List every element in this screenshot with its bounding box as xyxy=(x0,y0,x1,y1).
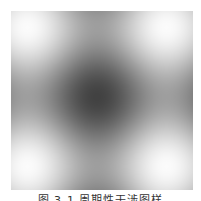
interference-pattern-figure xyxy=(11,11,193,190)
figure-caption: 图 3-1 周期性干涉图样 xyxy=(0,195,201,201)
pattern-canvas xyxy=(11,11,193,190)
